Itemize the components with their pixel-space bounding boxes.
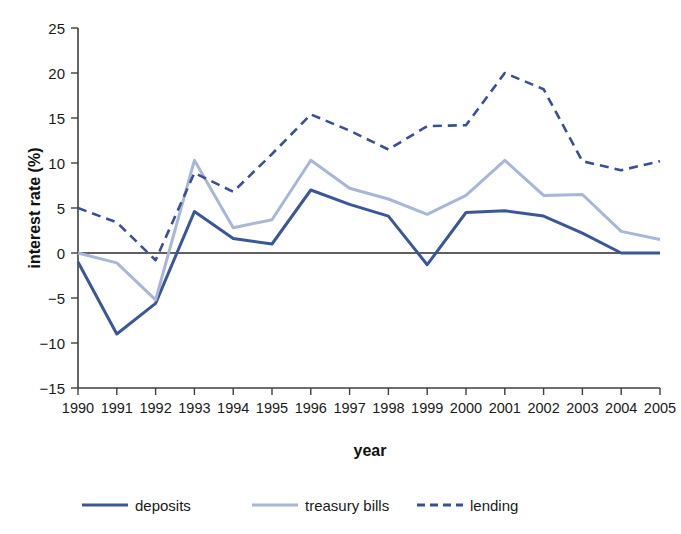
y-tick-label: 15 xyxy=(48,110,65,127)
x-axis-title: year xyxy=(354,442,387,459)
x-tick-label: 2000 xyxy=(450,400,482,416)
x-tick-label: 2002 xyxy=(527,400,559,416)
x-tick-label: 1996 xyxy=(295,400,327,416)
x-tick-label: 1997 xyxy=(333,400,365,416)
y-axis-title: interest rate (%) xyxy=(26,148,43,269)
y-tick-label: 20 xyxy=(48,65,65,82)
x-tick-label: 1992 xyxy=(139,400,171,416)
y-tick-label: 0 xyxy=(57,245,65,262)
y-tick-label: −15 xyxy=(40,380,65,397)
y-tick-label: 25 xyxy=(48,20,65,37)
x-tick-label: 1991 xyxy=(101,400,133,416)
legend-label-deposits: deposits xyxy=(135,497,191,514)
y-tick-label: 10 xyxy=(48,155,65,172)
x-tick-label: 2001 xyxy=(489,400,521,416)
x-tick-label: 2004 xyxy=(605,400,637,416)
y-tick-label: 5 xyxy=(57,200,65,217)
chart-container: −15−10−50510152025 199019911992199319941… xyxy=(0,0,681,534)
legend-label-lending: lending xyxy=(470,497,518,514)
x-tick-label: 1998 xyxy=(372,400,404,416)
y-tick-label: −10 xyxy=(40,335,65,352)
x-tick-label: 1995 xyxy=(256,400,288,416)
chart-background xyxy=(0,0,681,534)
y-tick-label: −5 xyxy=(48,290,65,307)
x-tick-label: 2003 xyxy=(566,400,598,416)
x-tick-label: 1994 xyxy=(217,400,249,416)
x-tick-label: 1990 xyxy=(62,400,94,416)
x-tick-label: 2005 xyxy=(644,400,676,416)
x-tick-label: 1999 xyxy=(411,400,443,416)
interest-rate-line-chart: −15−10−50510152025 199019911992199319941… xyxy=(0,0,681,534)
x-tick-label: 1993 xyxy=(178,400,210,416)
legend-label-treasury-bills: treasury bills xyxy=(305,497,389,514)
